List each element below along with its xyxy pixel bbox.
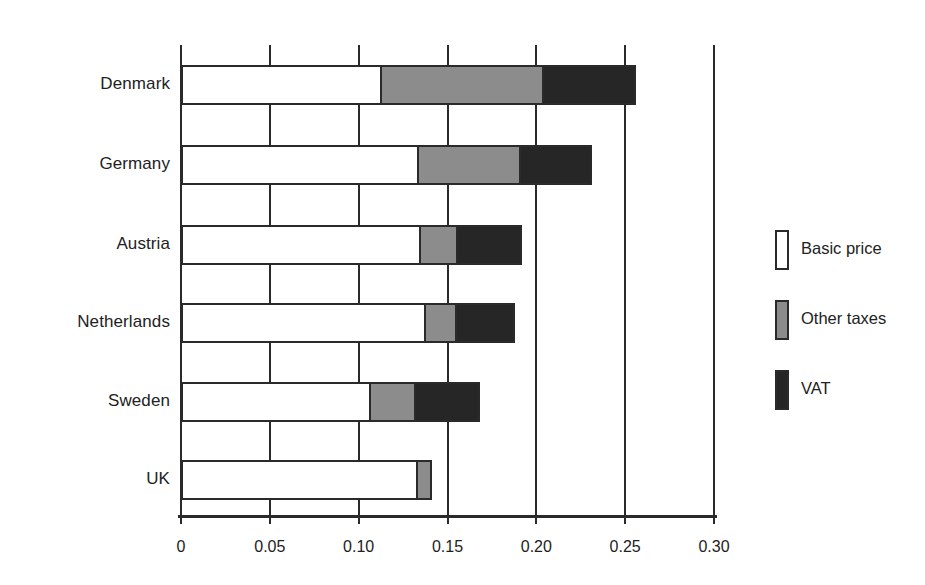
- legend-label: Other taxes: [801, 309, 886, 328]
- legend-label: VAT: [801, 379, 831, 398]
- x-tick-label: 0.05: [254, 538, 285, 556]
- category-label-denmark: Denmark: [100, 74, 170, 94]
- x-tick-label: 0.30: [698, 538, 729, 556]
- bar-segment-other-taxes: [419, 225, 458, 265]
- category-label-netherlands: Netherlands: [77, 312, 170, 332]
- bar-segment-basic-price: [181, 460, 418, 500]
- x-tick-mark: [180, 515, 182, 524]
- bar-segment-other-taxes: [369, 382, 415, 422]
- bar-segment-vat: [414, 382, 480, 422]
- bar-segment-other-taxes: [416, 460, 432, 500]
- category-label-austria: Austria: [116, 234, 170, 254]
- legend-item: VAT: [775, 368, 920, 414]
- gridline: [713, 45, 715, 515]
- bar-segment-other-taxes: [417, 145, 520, 185]
- gridline: [624, 45, 626, 515]
- bar-row: [181, 145, 714, 185]
- bar-segment-basic-price: [181, 382, 371, 422]
- category-label-uk: UK: [146, 469, 170, 489]
- bar-segment-basic-price: [181, 65, 382, 105]
- legend-swatch: [775, 230, 789, 270]
- bar-segment-vat: [456, 225, 522, 265]
- bar-segment-basic-price: [181, 225, 421, 265]
- category-label-germany: Germany: [99, 154, 170, 174]
- x-tick-mark: [713, 515, 715, 524]
- x-tick-mark: [535, 515, 537, 524]
- gridline: [535, 45, 537, 515]
- bar-segment-vat: [542, 65, 636, 105]
- bar-row: [181, 460, 714, 500]
- x-tick-mark: [447, 515, 449, 524]
- bar-row: [181, 303, 714, 343]
- x-tick-label: 0.15: [432, 538, 463, 556]
- gridline: [180, 45, 182, 515]
- bar-segment-basic-price: [181, 303, 426, 343]
- gridline: [269, 45, 271, 515]
- x-tick-label: 0.10: [343, 538, 374, 556]
- bar-segment-vat: [519, 145, 592, 185]
- legend-swatch: [775, 370, 789, 410]
- bar-row: [181, 65, 714, 105]
- bar-segment-other-taxes: [424, 303, 456, 343]
- legend-swatch: [775, 300, 789, 340]
- bar-row: [181, 225, 714, 265]
- category-label-sweden: Sweden: [108, 391, 170, 411]
- bar-row: [181, 382, 714, 422]
- x-tick-label: 0: [177, 538, 186, 556]
- bar-segment-basic-price: [181, 145, 419, 185]
- stacked-bar-chart: DenmarkGermanyAustriaNetherlandsSwedenUK…: [0, 0, 925, 585]
- x-tick-mark: [358, 515, 360, 524]
- legend-label: Basic price: [801, 239, 882, 258]
- x-tick-mark: [624, 515, 626, 524]
- gridline: [447, 45, 449, 515]
- gridline: [358, 45, 360, 515]
- x-tick-label: 0.20: [521, 538, 552, 556]
- x-tick-mark: [269, 515, 271, 524]
- x-tick-label: 0.25: [610, 538, 641, 556]
- legend-item: Basic price: [775, 228, 920, 274]
- plot-area: [181, 45, 714, 515]
- legend-item: Other taxes: [775, 298, 920, 344]
- bar-segment-other-taxes: [380, 65, 544, 105]
- bar-segment-vat: [455, 303, 516, 343]
- chart-legend: Basic priceOther taxesVAT: [775, 228, 920, 438]
